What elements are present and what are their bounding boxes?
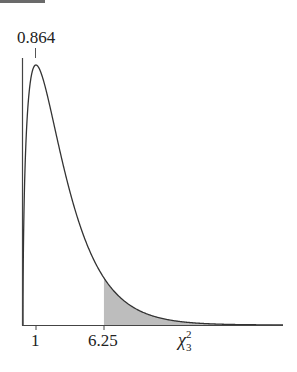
shaded-tail-area [104,278,283,325]
x-axis-subscript: 3 [186,342,192,353]
x-axis-superscript: 2 [186,329,192,340]
x-axis-label: χ23 [178,331,191,353]
peak-value-label: 0.864 [17,29,55,46]
x-tick-label-6-25: 6.25 [88,332,118,349]
density-curve [23,65,283,325]
x-tick-label-1: 1 [31,332,40,349]
chi-symbol: χ [178,330,186,350]
chi-square-plot [0,0,297,372]
